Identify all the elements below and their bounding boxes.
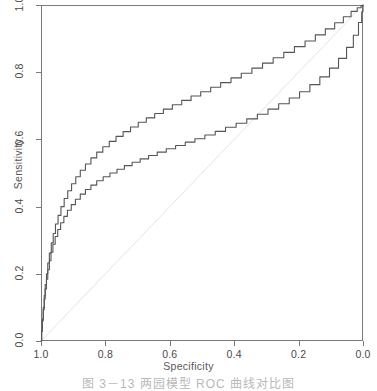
x-tick-label: 0.0 xyxy=(343,348,377,360)
y-tick xyxy=(36,274,41,275)
figure-caption: 图 3－13 两园模型 ROC 曲线对比图 xyxy=(0,374,377,391)
roc-plot-svg xyxy=(41,5,363,341)
y-tick-label: 0.2 xyxy=(13,260,25,286)
y-tick xyxy=(36,207,41,208)
x-tick xyxy=(170,341,171,346)
x-tick-label: 1.0 xyxy=(21,348,61,360)
x-tick-label: 0.2 xyxy=(279,348,319,360)
y-tick xyxy=(36,139,41,140)
x-tick xyxy=(234,341,235,346)
x-axis-title: Specificity xyxy=(0,360,377,372)
x-tick xyxy=(363,341,364,346)
x-tick-label: 0.4 xyxy=(214,348,254,360)
y-tick-label: 0.0 xyxy=(13,327,25,353)
y-tick xyxy=(36,72,41,73)
x-tick-label: 0.8 xyxy=(85,348,125,360)
y-tick-label: 1.0 xyxy=(13,0,25,17)
x-tick xyxy=(105,341,106,346)
y-tick xyxy=(36,5,41,6)
x-tick xyxy=(41,341,42,346)
y-tick-label: 0.8 xyxy=(13,58,25,84)
x-tick-label: 0.6 xyxy=(150,348,190,360)
y-axis-title: Sensitivity xyxy=(12,124,24,204)
reference-diagonal-line xyxy=(41,5,363,341)
x-tick xyxy=(299,341,300,346)
y-tick xyxy=(36,341,41,342)
